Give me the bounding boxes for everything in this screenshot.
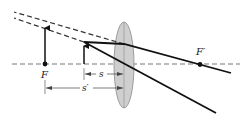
virtual-ray-extension-2 [14, 18, 84, 42]
ray-parallel [84, 42, 231, 73]
focal-point-left [43, 62, 48, 67]
label-s-prime: s′ [82, 83, 89, 93]
label-F: F [40, 69, 49, 80]
lens-ray-diagram: F F′ s s′ [0, 0, 250, 120]
label-F-prime: F′ [195, 46, 206, 57]
focal-point-right [198, 62, 203, 67]
label-s: s [99, 69, 104, 79]
virtual-ray-extension-1 [14, 12, 124, 44]
